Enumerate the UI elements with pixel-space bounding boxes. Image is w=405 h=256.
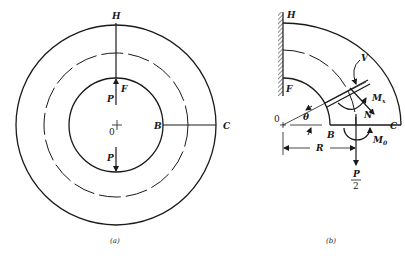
- mean-arc-dashed: [283, 50, 356, 125]
- moment-m0-arrow-icon: [344, 128, 370, 140]
- label-f: F: [120, 84, 128, 94]
- label-r: R: [315, 143, 324, 153]
- label-o: 0: [109, 127, 115, 137]
- label-f: F: [285, 84, 293, 94]
- label-o: 0: [274, 114, 280, 124]
- figure-a: H F P P 0 B C (a): [16, 11, 231, 245]
- fixed-wall-hatch-icon: [278, 12, 283, 96]
- label-n: N: [363, 110, 373, 120]
- caption-b: (b): [326, 237, 336, 245]
- label-theta: θ: [303, 112, 309, 122]
- label-v: V: [361, 53, 369, 63]
- cut-section: [325, 80, 368, 103]
- theta-arrow-upper-icon: [306, 106, 312, 110]
- label-c: C: [390, 121, 398, 131]
- label-b: B: [153, 121, 162, 131]
- label-p-bottom: P: [106, 153, 114, 163]
- figure-b: H F 0 θ B C V N Mx M0 R P 2 (b): [274, 10, 401, 245]
- caption-a: (a): [110, 237, 120, 245]
- label-c: C: [223, 121, 231, 131]
- diagram-canvas: H F P P 0 B C (a): [0, 0, 405, 256]
- label-mx: Mx: [371, 93, 386, 104]
- shear-v-arrow-icon: [354, 60, 360, 84]
- outer-arc: [283, 23, 401, 125]
- label-p-denominator: 2: [353, 181, 359, 191]
- label-h: H: [286, 10, 296, 20]
- label-b: B: [326, 130, 335, 140]
- theta-arrow-lower-icon: [308, 128, 311, 135]
- label-m0: M0: [372, 135, 388, 146]
- label-p-numerator: P: [352, 169, 360, 179]
- label-p-top: P: [106, 94, 114, 104]
- label-h: H: [111, 11, 121, 21]
